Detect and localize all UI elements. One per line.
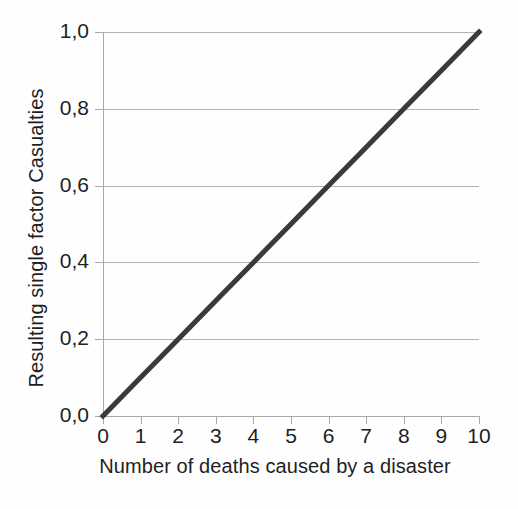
data-line-layer <box>103 32 479 416</box>
x-tick-mark <box>178 416 179 424</box>
x-axis-title: Number of deaths caused by a disaster <box>60 455 490 478</box>
x-tick-mark <box>479 416 480 424</box>
y-tick-mark <box>95 109 103 110</box>
x-tick-mark <box>141 416 142 424</box>
x-tick-mark <box>216 416 217 424</box>
y-tick-label: 0,2 <box>60 326 89 350</box>
x-tick-mark <box>441 416 442 424</box>
y-axis-title: Resulting single factor Casualties <box>14 28 58 448</box>
x-tick-mark <box>253 416 254 424</box>
x-tick-label: 10 <box>454 424 504 448</box>
y-tick-label: 0,6 <box>60 173 89 197</box>
x-tick-mark <box>404 416 405 424</box>
y-tick-label: 0,4 <box>60 249 89 273</box>
x-tick-mark <box>291 416 292 424</box>
x-tick-mark <box>329 416 330 424</box>
y-tick-label: 0,8 <box>60 96 89 120</box>
x-tick-mark <box>366 416 367 424</box>
data-line-series-0 <box>103 32 479 416</box>
y-tick-mark <box>95 339 103 340</box>
y-tick-mark <box>95 186 103 187</box>
chart-figure: Resulting single factor Casualties 0,00,… <box>0 0 518 509</box>
y-tick-label: 1,0 <box>60 19 89 43</box>
y-tick-mark <box>95 262 103 263</box>
y-tick-mark <box>95 32 103 33</box>
